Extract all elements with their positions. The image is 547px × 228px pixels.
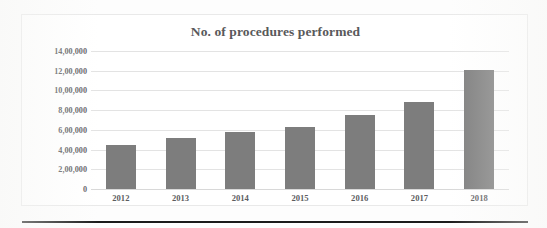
bar-2018 — [464, 70, 494, 189]
y-axis-tick-label: 8,00,000 — [58, 106, 87, 115]
x-axis-tick-label: 2014 — [232, 193, 249, 203]
bar-2012 — [106, 145, 136, 189]
y-axis-tick-label: 0 — [83, 185, 87, 194]
chart-frame: No. of procedures performed 02,00,0004,0… — [21, 14, 528, 206]
bar-2016 — [345, 115, 375, 189]
x-axis-tick-label: 2012 — [112, 193, 129, 203]
y-axis-labels: 02,00,0004,00,0006,00,0008,00,00010,00,0… — [30, 51, 87, 189]
bottom-divider — [22, 221, 528, 223]
y-axis-tick-label: 2,00,000 — [58, 165, 87, 174]
x-axis-tick-label: 2017 — [411, 193, 428, 203]
x-axis-labels: 2012201320142015201620172018 — [91, 193, 509, 209]
y-axis-tick-label: 4,00,000 — [58, 145, 87, 154]
x-axis-tick-label: 2013 — [172, 193, 189, 203]
y-axis-tick-label: 12,00,000 — [54, 66, 87, 75]
bar-2015 — [285, 127, 315, 189]
y-axis-tick-label: 10,00,000 — [54, 86, 87, 95]
y-axis-tick-label: 14,00,000 — [54, 47, 87, 56]
bar-2013 — [166, 138, 196, 189]
chart-page: No. of procedures performed 02,00,0004,0… — [0, 0, 547, 228]
gridline — [91, 189, 509, 190]
chart-title: No. of procedures performed — [22, 24, 529, 40]
bar-2014 — [225, 132, 255, 189]
bar-series — [91, 51, 509, 189]
x-axis-tick-label: 2018 — [471, 193, 488, 203]
x-axis-tick-label: 2015 — [291, 193, 308, 203]
bar-2017 — [404, 102, 434, 189]
plot-area — [91, 51, 509, 189]
x-axis-tick-label: 2016 — [351, 193, 368, 203]
y-axis-tick-label: 6,00,000 — [58, 125, 87, 134]
